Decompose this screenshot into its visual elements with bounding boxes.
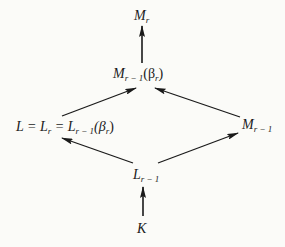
node-left-part2: = L <box>51 119 75 134</box>
node-lower: Lr − 1 <box>133 168 159 184</box>
node-upper: Mr − 1(βr) <box>113 67 163 83</box>
node-left-sub2: r − 1 <box>76 126 95 136</box>
node-upper-close-paren: ) <box>159 66 164 81</box>
node-left-part1: L = L <box>16 119 48 134</box>
node-bottom-symbol: K <box>137 221 146 236</box>
node-lower-subscript: r − 1 <box>141 174 160 184</box>
node-right: Mr − 1 <box>242 118 272 134</box>
node-left: L = Lr = Lr − 1(βr) <box>16 120 114 136</box>
node-lower-symbol: L <box>133 167 141 182</box>
node-bottom: K <box>137 222 146 236</box>
arrow-lower-to-right <box>158 133 238 163</box>
node-top-subscript: r <box>146 15 150 25</box>
node-upper-paren: (β <box>143 66 155 81</box>
arrow-left-to-upper <box>62 88 136 116</box>
node-upper-subscript: r − 1 <box>125 73 144 83</box>
node-right-subscript: r − 1 <box>254 124 273 134</box>
arrow-lower-to-left <box>62 138 133 163</box>
node-upper-symbol: M <box>113 66 125 81</box>
arrow-right-to-upper <box>155 88 240 117</box>
node-top: Mr <box>134 9 149 25</box>
node-right-symbol: M <box>242 117 254 132</box>
node-left-part4: ) <box>109 119 114 134</box>
field-extension-diagram: Mr Mr − 1(βr) L = Lr = Lr − 1(βr) Mr − 1… <box>0 0 285 247</box>
node-left-part3: (β <box>94 119 106 134</box>
node-top-symbol: M <box>134 8 146 23</box>
